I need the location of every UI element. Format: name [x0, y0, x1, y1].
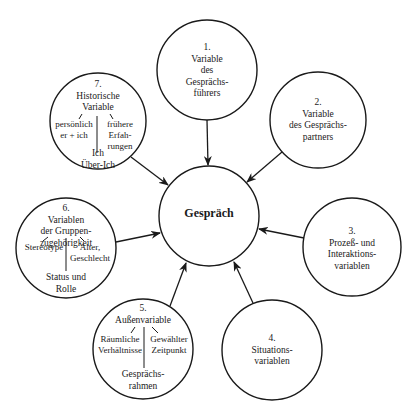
- node-5-right: Gewählter Zeitpunkt: [146, 334, 192, 356]
- arrow-4: [234, 262, 253, 303]
- node-5-title: 5. Außenvariable: [103, 303, 183, 326]
- node-7-title: 7. Historische Variable: [58, 79, 138, 114]
- node-2-label: 2. Variable des Gesprächs- partners: [273, 97, 363, 143]
- node-5-bottom: Gesprächs- rahmen: [113, 369, 173, 392]
- node-4-label: 4. Situations- variablen: [232, 333, 312, 368]
- node-6-left: Stereotype: [22, 242, 66, 253]
- arrow-2: [247, 152, 282, 182]
- arrow-6: [116, 233, 160, 242]
- center-label: Gespräch: [159, 208, 259, 220]
- node-6-right: Alter, Geschlecht: [68, 242, 112, 264]
- node-6-bottom: Status und Rolle: [36, 272, 96, 295]
- node-7-left: persönlich er + ich: [53, 119, 95, 141]
- arrow-3: [259, 229, 304, 238]
- node-7-bottom: Ich Über-Ich: [68, 148, 128, 171]
- arrow-5: [170, 263, 186, 306]
- node-3-label: 3. Prozeß- und Interaktions- variablen: [307, 226, 397, 272]
- node-1-label: 1. Variable des Gesprächs- führers: [167, 42, 247, 100]
- arrow-7: [131, 157, 168, 185]
- node-5-left: Räumliche Verhältnisse: [97, 334, 143, 356]
- arrow-1: [207, 120, 208, 165]
